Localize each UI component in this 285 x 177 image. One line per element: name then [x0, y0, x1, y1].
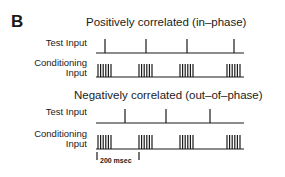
scale-bar-label: 200 msec	[100, 157, 132, 164]
spike-trains-diagram: 200 msec	[0, 0, 285, 177]
